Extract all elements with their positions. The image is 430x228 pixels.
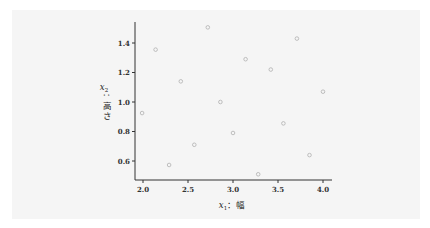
- data-point: [269, 68, 273, 72]
- data-point: [179, 80, 183, 84]
- svg-text:x2: x2: [100, 82, 108, 93]
- y-tick-label: 0.6: [118, 157, 130, 166]
- data-point: [282, 122, 286, 126]
- x-tick-label: 3.5: [272, 185, 284, 194]
- data-point: [193, 143, 197, 147]
- x-tick-label: 4.0: [317, 185, 329, 194]
- data-point: [231, 131, 235, 135]
- data-point: [295, 37, 299, 41]
- svg-text:高: 高: [103, 101, 112, 111]
- data-point: [206, 26, 210, 30]
- y-axis-label: x2 ： 高 さ: [100, 82, 112, 121]
- data-point: [308, 153, 312, 157]
- data-point: [154, 48, 158, 52]
- y-tick-label: 1.4: [118, 39, 130, 48]
- x-ticks: 2.02.53.03.54.0: [137, 180, 329, 194]
- y-tick-label: 0.8: [118, 127, 130, 136]
- data-point: [167, 163, 171, 167]
- data-point: [140, 111, 144, 115]
- data-point: [321, 90, 325, 94]
- y-tick-label: 1.0: [118, 98, 130, 107]
- y-ticks: 0.60.81.01.21.4: [118, 39, 135, 166]
- data-point: [244, 57, 248, 61]
- scatter-chart: 2.02.53.03.54.0 0.60.81.01.21.4 x1：幅 x2 …: [0, 0, 430, 228]
- data-point: [256, 172, 260, 176]
- x-tick-label: 2.0: [137, 185, 149, 194]
- x-tick-label: 3.0: [227, 185, 239, 194]
- svg-text:さ: さ: [103, 111, 112, 121]
- y-tick-label: 1.2: [118, 68, 130, 77]
- x-axis-label: x1：幅: [219, 200, 245, 211]
- data-points: [140, 26, 325, 177]
- x-tick-label: 2.5: [182, 185, 194, 194]
- data-point: [219, 100, 223, 104]
